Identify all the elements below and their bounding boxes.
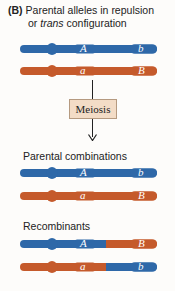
allele-1: A [80, 237, 87, 250]
chromosome: aB [20, 65, 157, 77]
allele-2: b [138, 260, 144, 273]
title-italic: trans [40, 17, 63, 29]
allele-2: b [138, 166, 144, 179]
parental-combinations-label: Parental combinations [23, 150, 127, 162]
connector-line-top [92, 80, 93, 99]
meiosis-box: Meiosis [69, 99, 117, 119]
arrow-down-icon [88, 134, 97, 141]
chromosome-shape [20, 43, 157, 55]
allele-2: B [138, 64, 145, 77]
recombinants-label: Recombinants [23, 220, 90, 232]
allele-2: b [138, 42, 144, 55]
title-prefix: or [28, 17, 40, 29]
allele-1: a [80, 189, 86, 202]
allele-1: a [80, 64, 86, 77]
allele-1: A [80, 166, 87, 179]
title-line-1: (B)Parental alleles in repulsion [8, 4, 154, 17]
chromosome: Ab [20, 43, 157, 55]
allele-1: a [80, 260, 86, 273]
chromosome: aB [20, 190, 157, 202]
panel-label: (B) [8, 4, 23, 16]
allele-2: B [138, 237, 145, 250]
title-text-1: Parental alleles in repulsion [26, 4, 154, 16]
title-line-2: or trans configuration [8, 17, 154, 30]
allele-1: A [80, 42, 87, 55]
allele-2: B [138, 189, 145, 202]
title-suffix: configuration [64, 17, 127, 29]
chromosome-shape [20, 190, 157, 202]
figure-title: (B)Parental alleles in repulsion or tran… [8, 4, 154, 30]
chromosome-shape [20, 167, 157, 179]
chromosome-shape [20, 238, 157, 250]
chromosome-shape [20, 65, 157, 77]
chromosome: ab [20, 261, 157, 273]
chromosome-shape [20, 261, 157, 273]
meiosis-label: Meiosis [76, 103, 111, 115]
chromosome: Ab [20, 167, 157, 179]
chromosome: AB [20, 238, 157, 250]
